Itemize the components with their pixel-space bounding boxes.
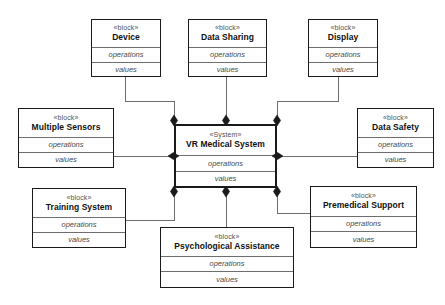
block-display-values-label: values	[332, 65, 354, 75]
block-training-system[interactable]: «block» Training System operations value…	[32, 188, 126, 248]
block-device[interactable]: «block» Device operations values	[91, 19, 161, 77]
block-training-system-values-label: values	[68, 235, 90, 245]
block-psychological-assistance-name: Psychological Assistance	[174, 241, 279, 252]
block-data-sharing-operations: operations	[189, 48, 266, 63]
block-display-operations-label: operations	[325, 50, 360, 60]
block-display-values: values	[309, 63, 377, 76]
block-multiple-sensors-operations: operations	[19, 138, 113, 153]
block-multiple-sensors-name: Multiple Sensors	[32, 122, 101, 133]
block-psychological-assistance-header: «block» Psychological Assistance	[161, 228, 293, 257]
block-premedical-support-stereotype: «block»	[351, 191, 376, 200]
block-multiple-sensors-header: «block» Multiple Sensors	[19, 109, 113, 138]
block-psychological-assistance-values-label: values	[216, 275, 238, 285]
block-multiple-sensors-values: values	[19, 153, 113, 167]
block-premedical-support-values: values	[311, 232, 416, 247]
block-premedical-support-name: Premedical Support	[323, 200, 404, 211]
block-data-safety-operations: operations	[358, 138, 433, 153]
block-data-safety[interactable]: «block» Data Safety operations values	[357, 108, 434, 168]
block-device-values: values	[92, 63, 160, 76]
block-data-safety-values: values	[358, 153, 433, 167]
block-psychological-assistance-operations-label: operations	[209, 259, 244, 269]
block-data-sharing-name: Data Sharing	[201, 32, 254, 43]
block-device-header: «block» Device	[92, 20, 160, 48]
block-psychological-assistance-stereotype: «block»	[215, 232, 240, 241]
block-multiple-sensors-operations-label: operations	[48, 140, 83, 150]
block-device-values-label: values	[115, 65, 137, 75]
block-display-stereotype: «block»	[331, 23, 356, 32]
block-display-header: «block» Display	[309, 20, 377, 48]
block-premedical-support[interactable]: «block» Premedical Support operations va…	[310, 186, 417, 248]
block-data-sharing-header: «block» Data Sharing	[189, 20, 266, 48]
block-display-name: Display	[328, 32, 359, 43]
block-training-system-operations-label: operations	[61, 220, 96, 230]
block-device-name: Device	[112, 32, 140, 43]
block-multiple-sensors-stereotype: «block»	[54, 113, 79, 122]
block-multiple-sensors-values-label: values	[55, 155, 77, 165]
block-training-system-header: «block» Training System	[33, 189, 125, 218]
block-vr-medical-system-values-label: values	[215, 174, 237, 184]
block-device-stereotype: «block»	[114, 23, 139, 32]
connector-device-to-system	[125, 77, 174, 118]
block-premedical-support-operations-label: operations	[346, 219, 381, 229]
block-psychological-assistance[interactable]: «block» Psychological Assistance operati…	[160, 227, 294, 288]
block-data-safety-stereotype: «block»	[383, 113, 408, 122]
block-vr-medical-system-header: «System» VR Medical System	[176, 126, 275, 156]
block-display-operations: operations	[309, 48, 377, 63]
block-vr-medical-system-name: VR Medical System	[186, 139, 265, 150]
block-device-operations-label: operations	[108, 50, 143, 60]
block-training-system-name: Training System	[46, 202, 112, 213]
block-psychological-assistance-operations: operations	[161, 257, 293, 272]
block-training-system-operations: operations	[33, 218, 125, 233]
block-data-sharing-values-label: values	[217, 65, 239, 75]
block-vr-medical-system-operations-label: operations	[208, 159, 243, 169]
block-vr-medical-system-stereotype: «System»	[210, 130, 242, 139]
block-psychological-assistance-values: values	[161, 272, 293, 287]
block-multiple-sensors[interactable]: «block» Multiple Sensors operations valu…	[18, 108, 114, 168]
block-data-safety-operations-label: operations	[378, 140, 413, 150]
connector-display-to-system	[277, 77, 338, 118]
block-display[interactable]: «block» Display operations values	[308, 19, 378, 77]
block-vr-medical-system-operations: operations	[176, 156, 275, 172]
block-premedical-support-values-label: values	[353, 235, 375, 245]
block-data-sharing-operations-label: operations	[210, 50, 245, 60]
block-premedical-support-operations: operations	[311, 217, 416, 232]
block-vr-medical-system[interactable]: «System» VR Medical System operations va…	[174, 124, 277, 188]
block-device-operations: operations	[92, 48, 160, 63]
block-training-system-values: values	[33, 233, 125, 247]
block-data-sharing[interactable]: «block» Data Sharing operations values	[188, 19, 267, 77]
connector-training-system-to-system	[126, 194, 174, 220]
connector-premedical-support-to-system	[277, 194, 310, 213]
block-data-sharing-stereotype: «block»	[215, 23, 240, 32]
block-vr-medical-system-values: values	[176, 172, 275, 186]
block-data-safety-values-label: values	[385, 155, 407, 165]
block-data-sharing-values: values	[189, 63, 266, 76]
block-data-safety-name: Data Safety	[372, 122, 419, 133]
block-data-safety-header: «block» Data Safety	[358, 109, 433, 138]
block-definition-diagram: «block» Device operations values «block»…	[0, 0, 445, 305]
block-premedical-support-header: «block» Premedical Support	[311, 187, 416, 217]
block-training-system-stereotype: «block»	[67, 193, 92, 202]
